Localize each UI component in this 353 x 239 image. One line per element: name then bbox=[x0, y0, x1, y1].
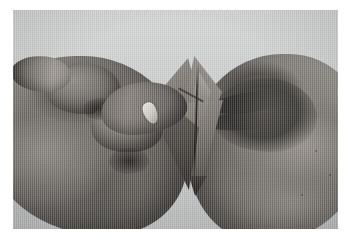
skin-freckle bbox=[329, 174, 331, 176]
skin-freckle bbox=[315, 150, 317, 152]
left-hand-crease-lower bbox=[109, 148, 149, 174]
origami-folding-photograph bbox=[13, 10, 338, 229]
skin-freckle bbox=[301, 194, 303, 196]
page-canvas bbox=[0, 0, 353, 239]
